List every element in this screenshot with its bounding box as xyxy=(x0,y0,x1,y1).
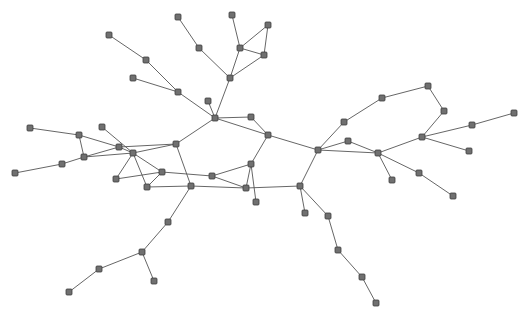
graph-node xyxy=(237,45,243,51)
graph-node xyxy=(511,110,517,116)
graph-edge xyxy=(116,172,162,179)
graph-node xyxy=(325,213,331,219)
graph-node xyxy=(175,89,181,95)
graph-node xyxy=(165,219,171,225)
graph-node xyxy=(466,148,472,154)
graph-node xyxy=(27,125,33,131)
graph-edge xyxy=(348,141,378,153)
graph-edge xyxy=(191,186,246,188)
graph-edge xyxy=(69,269,99,292)
graph-edge xyxy=(422,137,469,151)
graph-node xyxy=(196,45,202,51)
graph-node xyxy=(175,14,181,20)
graph-node xyxy=(335,247,341,253)
graph-edge xyxy=(199,48,230,78)
graph-edge xyxy=(168,186,191,222)
graph-node xyxy=(96,266,102,272)
graph-edge xyxy=(99,252,142,269)
graph-edge xyxy=(178,17,199,48)
graph-edge xyxy=(176,144,191,186)
graph-edge xyxy=(30,128,79,135)
graph-edge xyxy=(251,135,268,164)
graph-node xyxy=(130,75,136,81)
graph-edge xyxy=(15,164,62,173)
network-graph xyxy=(0,0,527,319)
graph-edge xyxy=(215,78,230,118)
graph-node xyxy=(188,183,194,189)
graph-edge xyxy=(176,118,215,144)
graph-node xyxy=(253,199,259,205)
graph-node xyxy=(205,98,211,104)
graph-node xyxy=(76,132,82,138)
graph-edge xyxy=(246,164,251,188)
graph-edge xyxy=(422,111,444,137)
graph-edge xyxy=(378,153,419,173)
graph-node xyxy=(159,169,165,175)
graph-node xyxy=(469,122,475,128)
graph-node xyxy=(419,134,425,140)
graph-node xyxy=(359,274,365,280)
graph-edge xyxy=(232,15,240,48)
graph-node xyxy=(12,170,18,176)
graph-node xyxy=(379,95,385,101)
graph-edge xyxy=(300,150,318,186)
graph-edge xyxy=(230,48,240,78)
graph-node xyxy=(106,32,112,38)
graph-edge xyxy=(428,86,444,111)
graph-node xyxy=(116,144,122,150)
graph-edge xyxy=(378,137,422,153)
graph-edge xyxy=(251,164,256,202)
graph-node xyxy=(373,300,379,306)
graph-node xyxy=(389,177,395,183)
graph-node xyxy=(441,108,447,114)
graph-node xyxy=(173,141,179,147)
graph-edge xyxy=(338,250,362,277)
graph-node xyxy=(345,138,351,144)
graph-node xyxy=(302,210,308,216)
graph-edge xyxy=(268,135,318,150)
graph-node xyxy=(229,12,235,18)
graph-edge xyxy=(240,25,268,48)
graph-node xyxy=(113,176,119,182)
graph-node xyxy=(66,289,72,295)
graph-nodes xyxy=(12,12,517,306)
graph-edge xyxy=(230,55,264,78)
graph-edge xyxy=(419,173,453,196)
graph-edge xyxy=(109,35,146,60)
graph-edge xyxy=(422,125,472,137)
graph-edge xyxy=(264,25,268,55)
graph-node xyxy=(265,132,271,138)
graph-node xyxy=(99,124,105,130)
graph-node xyxy=(139,249,145,255)
graph-node xyxy=(248,114,254,120)
graph-node xyxy=(151,278,157,284)
graph-node xyxy=(261,52,267,58)
graph-node xyxy=(341,119,347,125)
graph-node xyxy=(375,150,381,156)
graph-edge xyxy=(142,252,154,281)
graph-edge xyxy=(147,186,191,187)
graph-node xyxy=(81,154,87,160)
graph-node xyxy=(315,147,321,153)
graph-edge xyxy=(215,117,251,118)
graph-node xyxy=(416,170,422,176)
graph-edge xyxy=(116,153,133,179)
graph-edge xyxy=(240,48,264,55)
graph-edge xyxy=(472,113,514,125)
graph-edge xyxy=(212,164,251,176)
graph-edge xyxy=(378,153,392,180)
graph-node xyxy=(227,75,233,81)
graph-node xyxy=(144,184,150,190)
graph-node xyxy=(450,193,456,199)
graph-edge xyxy=(362,277,376,303)
graph-node xyxy=(143,57,149,63)
graph-edge xyxy=(212,176,246,188)
graph-node xyxy=(265,22,271,28)
graph-node xyxy=(130,150,136,156)
graph-edge xyxy=(382,86,428,98)
graph-edge xyxy=(344,98,382,122)
graph-node xyxy=(59,161,65,167)
graph-node xyxy=(248,161,254,167)
graph-edge xyxy=(328,216,338,250)
graph-node xyxy=(212,115,218,121)
